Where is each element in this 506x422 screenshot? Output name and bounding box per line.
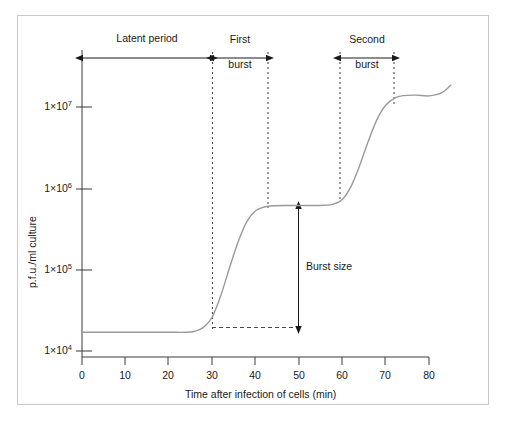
x-tick-label-10: 10	[105, 370, 145, 381]
x-tick-label-20: 20	[148, 370, 188, 381]
guide-lines	[212, 52, 394, 330]
annotation-arrows	[83, 58, 393, 327]
x-tick-label-60: 60	[322, 370, 362, 381]
y-tick-label-1e4: 1×104	[28, 345, 72, 356]
y-tick-label-1e7: 1×107	[28, 101, 72, 112]
x-tick-label-40: 40	[235, 370, 275, 381]
x-axis-title: Time after infection of cells (min)	[185, 388, 336, 400]
y-axis-title: p.f.u./ml culture	[26, 216, 38, 288]
x-tick-label-80: 80	[409, 370, 449, 381]
x-tick-label-0: 0	[62, 370, 102, 381]
axis-lines	[82, 50, 429, 357]
x-tick-label-50: 50	[279, 370, 319, 381]
figure-container: 1×107 1×106 1×105 1×104 0 10 20 30 40 50…	[0, 0, 506, 422]
latent-period-label: Latent period	[97, 32, 197, 44]
x-axis-ticks	[82, 357, 429, 365]
second-burst-label-line2: burst	[355, 58, 378, 70]
growth-curve-line	[82, 85, 451, 332]
x-tick-label-70: 70	[365, 370, 405, 381]
burst-size-label: Burst size	[306, 260, 378, 272]
y-tick-label-1e6: 1×106	[28, 183, 72, 194]
first-burst-label: First burst	[211, 21, 269, 71]
second-burst-label: Second burst	[330, 21, 404, 71]
first-burst-label-line2: burst	[228, 58, 251, 70]
x-tick-label-30: 30	[192, 370, 232, 381]
second-burst-label-line1: Second	[349, 33, 385, 45]
y-axis-ticks	[76, 107, 92, 351]
first-burst-label-line1: First	[230, 33, 250, 45]
